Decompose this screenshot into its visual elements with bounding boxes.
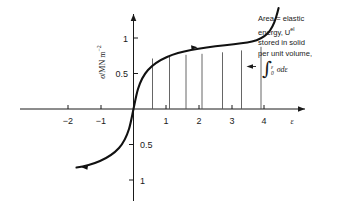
integral-integrand: σdε bbox=[277, 65, 288, 74]
stress-strain-curve bbox=[77, 8, 279, 168]
y-axis-arrowhead bbox=[131, 14, 137, 21]
x-tick-label-3: 3 bbox=[229, 116, 234, 126]
integral-expression: ∫ε0σdε bbox=[262, 64, 288, 75]
y-tick-label-0.5: 0.5 bbox=[115, 69, 128, 79]
strip-pointer-arrow bbox=[247, 64, 257, 69]
annotation-line-3: stored in solid bbox=[258, 38, 338, 48]
y-axis-label-unit: /MN m bbox=[98, 52, 107, 75]
y-axis-label: σ/MN m−2 bbox=[96, 34, 107, 90]
x-axis-arrowhead bbox=[298, 106, 305, 112]
x-tick-label--1: −1 bbox=[96, 116, 106, 126]
x-tick-label-4: 4 bbox=[261, 116, 266, 126]
y-tick-label--0.5: 0.5 bbox=[140, 140, 153, 150]
annotation-line-2-text: energy, U bbox=[258, 28, 290, 37]
integral-lower-limit: 0 bbox=[271, 70, 274, 76]
x-axis-label: ε bbox=[290, 117, 294, 126]
elastic-energy-annotation: Area = elastic energy, Uel stored in sol… bbox=[258, 14, 338, 59]
x-tick-label-2: 2 bbox=[196, 116, 201, 126]
x-tick-label-1: 1 bbox=[163, 116, 168, 126]
x-tick-label--2: −2 bbox=[63, 116, 73, 126]
annotation-line-2: energy, Uel bbox=[258, 24, 338, 38]
y-tick-label--1: 1 bbox=[140, 176, 145, 186]
integral-limits: ε0 bbox=[271, 65, 274, 76]
y-tick-label-1: 1 bbox=[123, 34, 128, 44]
x-axis bbox=[20, 105, 305, 112]
annotation-line-1: Area = elastic bbox=[258, 14, 338, 24]
stress-strain-figure: −2 −1 1 2 3 4 1 0.5 0.5 1 ε σ/MN m−2 Are… bbox=[0, 0, 338, 209]
y-axis-label-symbol: σ bbox=[98, 75, 107, 79]
annotation-line-2-superscript: el bbox=[290, 26, 294, 32]
y-axis-label-exponent: −2 bbox=[96, 45, 102, 51]
